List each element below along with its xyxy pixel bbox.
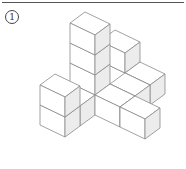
isometric-cube-figure (0, 0, 186, 169)
